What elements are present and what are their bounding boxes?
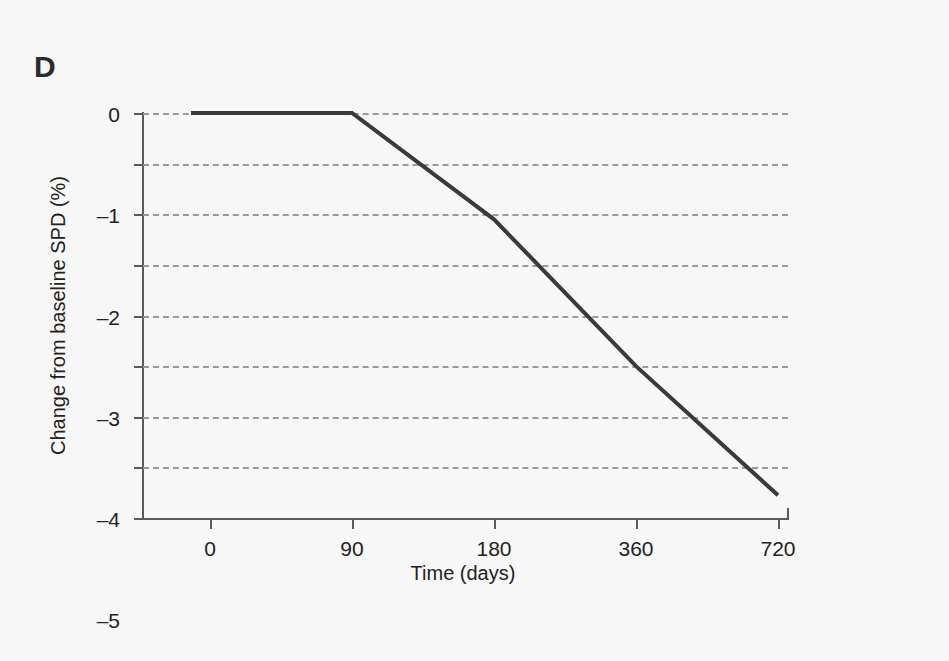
y-tick-label: –5 xyxy=(97,609,120,633)
plot-area: 0–1–2–3–4–5–6–7–8 090180360720 xyxy=(143,113,788,518)
y-tick-label: –3 xyxy=(97,407,120,431)
y-tick-mark: –3 xyxy=(134,265,143,267)
x-tick-label: 0 xyxy=(204,537,216,561)
x-tick-label: 180 xyxy=(476,537,511,561)
y-tick-label: –2 xyxy=(97,306,120,330)
x-tick-mark xyxy=(210,518,212,529)
y-tick-mark: –4 xyxy=(134,316,143,318)
y-tick-mark: 0 xyxy=(134,113,143,115)
figure-panel-d: D Change from baseline SPD (%) Time (day… xyxy=(0,0,949,661)
y-tick-mark: –8 xyxy=(134,518,143,520)
x-tick-mark xyxy=(778,518,780,529)
y-tick-mark: –1 xyxy=(134,164,143,166)
x-tick-label: 360 xyxy=(618,537,653,561)
data-series-group xyxy=(143,113,788,518)
x-tick-mark xyxy=(636,518,638,529)
x-axis-label: Time (days) xyxy=(143,562,783,585)
series-line-change-from-baseline-spd xyxy=(191,113,778,495)
y-tick-mark: –6 xyxy=(134,417,143,419)
y-tick-label: –1 xyxy=(97,204,120,228)
y-tick-mark: –7 xyxy=(134,467,143,469)
y-tick-label: 0 xyxy=(108,103,120,127)
y-tick-mark: –5 xyxy=(134,366,143,368)
y-tick-mark: –2 xyxy=(134,214,143,216)
x-axis-spine xyxy=(143,518,789,520)
y-tick-label: –4 xyxy=(97,508,120,532)
panel-label: D xyxy=(34,52,56,82)
x-tick-mark xyxy=(494,518,496,529)
x-tick-label: 720 xyxy=(760,537,795,561)
y-axis-label: Change from baseline SPD (%) xyxy=(47,106,70,526)
x-tick-mark xyxy=(352,518,354,529)
x-tick-label: 90 xyxy=(340,537,363,561)
